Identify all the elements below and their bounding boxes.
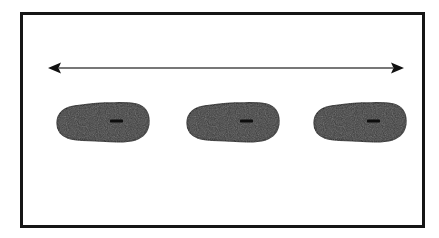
blob-2-hotspot xyxy=(187,102,279,142)
hotspot-layer xyxy=(0,0,439,238)
blob-3-hotspot xyxy=(314,102,406,142)
figure-root xyxy=(0,0,439,238)
blob-1-hotspot xyxy=(57,102,149,142)
double-headed-span-arrow-hotspot xyxy=(48,60,404,76)
